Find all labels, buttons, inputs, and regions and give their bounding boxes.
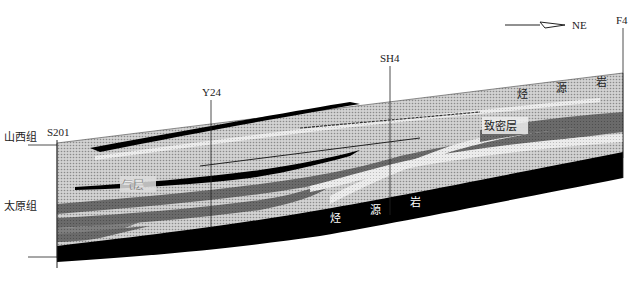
source-rock-upper-2: 源 — [556, 81, 567, 95]
well-label-sh4: SH4 — [380, 52, 400, 64]
compass-label: NE — [572, 19, 587, 31]
well-label-s201: S201 — [47, 126, 70, 138]
tight-layer-label: 致密层 — [484, 119, 517, 133]
formation-label-shanxi: 山西组 — [4, 130, 37, 144]
gas-layer-label: 气层 — [122, 178, 144, 192]
source-rock-upper-1: 烃 — [517, 88, 528, 101]
well-label-y24: Y24 — [202, 86, 221, 98]
cross-section-diagram: S201 Y24 SH4 F4 NE 山西组 太原组 气层 致密层 烃 源 岩 … — [0, 0, 636, 284]
north-east-arrow-icon — [505, 22, 565, 28]
source-rock-lower-2: 源 — [370, 203, 381, 217]
source-rock-lower-1: 烃 — [330, 212, 341, 225]
formation-label-taiyuan: 太原组 — [4, 199, 37, 213]
source-rock-lower-3: 岩 — [410, 195, 421, 209]
well-label-f4: F4 — [616, 14, 628, 26]
source-rock-upper-3: 岩 — [596, 75, 607, 89]
